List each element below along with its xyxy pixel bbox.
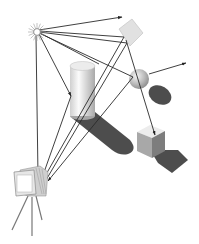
light-source-icon <box>28 23 46 41</box>
ray-tracing-diagram <box>0 0 199 244</box>
translucent-panel <box>119 19 143 46</box>
sphere <box>129 69 149 89</box>
cylinder <box>70 62 95 121</box>
sphere-shadow <box>145 81 175 109</box>
cube <box>137 125 165 158</box>
camera-icon <box>12 166 48 236</box>
